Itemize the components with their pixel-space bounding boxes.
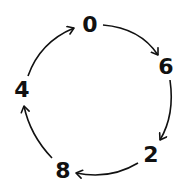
arrow-8-to-4 <box>24 106 52 158</box>
node-2: 2 <box>143 144 158 166</box>
arrow-6-to-2 <box>160 80 171 140</box>
cycle-diagram: 0 6 2 8 4 <box>0 0 185 189</box>
node-4: 4 <box>14 79 29 101</box>
arrow-2-to-8 <box>76 163 138 175</box>
arrow-4-to-0 <box>28 28 74 76</box>
node-8: 8 <box>55 160 70 182</box>
node-0: 0 <box>82 14 97 36</box>
arrow-0-to-6 <box>103 25 158 55</box>
node-6: 6 <box>158 56 173 78</box>
